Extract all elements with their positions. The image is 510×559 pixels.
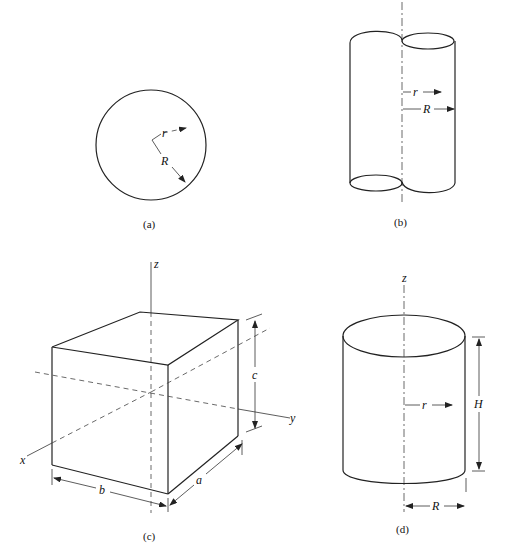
figure-d-cylinder: z r H R (d) <box>343 271 485 536</box>
c-ext-top <box>246 314 262 320</box>
label-b: b <box>99 483 105 497</box>
x-axis-hidden <box>52 392 151 443</box>
a-arrow-down <box>170 485 194 505</box>
bottom-right-edge <box>168 436 238 494</box>
label-R: R <box>160 154 169 168</box>
figure-canvas: r R (a) r R (b) z <box>0 0 510 559</box>
label-y: y <box>289 411 296 425</box>
r-leader <box>152 134 161 140</box>
label-z-d: z <box>401 271 407 285</box>
label-a: a <box>196 473 202 487</box>
y-axis-hidden <box>35 372 238 409</box>
left-top-arc <box>350 31 402 43</box>
label-r-d: r <box>422 398 427 412</box>
b-arrow-left <box>54 478 96 488</box>
b-arrow-right <box>110 492 166 506</box>
a-arrow-up <box>206 444 242 474</box>
figure-b-cylinder: r R (b) <box>350 2 455 229</box>
label-z-c: z <box>153 257 159 271</box>
R-arrow <box>172 167 185 182</box>
top-face <box>52 312 238 365</box>
right-top-ellipse <box>402 33 454 49</box>
label-r: r <box>162 126 167 140</box>
caption-d: (d) <box>396 523 409 536</box>
label-R-b: R <box>422 102 431 116</box>
x-axis <box>27 443 52 456</box>
y-axis <box>238 409 290 418</box>
label-R-d: R <box>431 499 440 513</box>
label-x: x <box>19 453 26 467</box>
right-bottom-arc <box>402 182 455 193</box>
caption-a: (a) <box>143 218 156 231</box>
figure-a-circle: r R (a) <box>96 90 206 231</box>
label-c: c <box>252 368 258 382</box>
circle-outline <box>96 90 206 200</box>
R-leader-upper <box>152 140 161 154</box>
c-ext-bottom <box>246 426 262 432</box>
caption-c: (c) <box>143 530 156 543</box>
label-H: H <box>473 397 484 411</box>
left-bottom-ellipse <box>350 175 402 191</box>
label-r-b: r <box>413 85 418 99</box>
figure-c-block: z x y c b a (c) <box>19 257 296 543</box>
caption-b: (b) <box>394 216 407 229</box>
